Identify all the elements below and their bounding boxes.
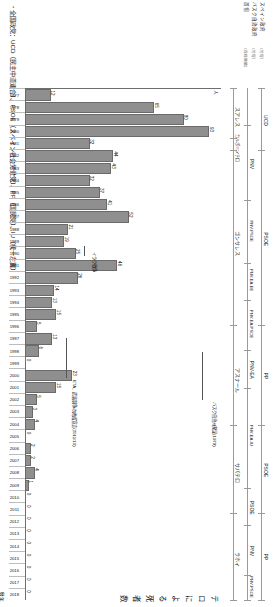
bar: [25, 211, 129, 222]
x-axis-tick: 2008: [9, 466, 25, 479]
timeline-segment-tick: [244, 488, 251, 489]
bar-value-label: 65: [154, 103, 159, 108]
bar: [25, 333, 52, 344]
bar-value-label: 15: [56, 310, 61, 315]
bar-value-label: 1: [28, 481, 33, 484]
x-axis-tick-label: 2006: [10, 446, 19, 451]
timeline-segment-label: UCD: [262, 115, 269, 126]
bar-value-label: 23: [72, 371, 77, 376]
timeline-segment-tick: [244, 263, 251, 264]
timeline-segment-label: PNV: [248, 546, 255, 556]
bar-value-label: 0: [27, 529, 32, 532]
bar: [25, 236, 64, 247]
timeline-segment-tick: [230, 425, 237, 426]
timeline-segment-tick: [244, 200, 251, 201]
x-axis-tick-label: 1977: [10, 93, 19, 98]
timeline-segment-tick: [244, 600, 251, 601]
bar-value-label: 0: [27, 566, 32, 569]
x-axis-tick-label: 2009: [10, 483, 19, 488]
bar-value-label: 5: [36, 322, 41, 325]
rotated-figure: ・全国政党：UCD（民主中道連合）、PSOE（スペイン社会労働党）、PP（国民党…: [0, 0, 273, 607]
timeline-segment-label: PSOE: [248, 501, 255, 515]
x-axis-tick-label: 2003: [10, 409, 19, 414]
x-axis-tick-label: 1996: [10, 324, 19, 329]
timeline-segment-tick: [258, 150, 265, 151]
bar-value-label: 46: [117, 261, 122, 266]
x-axis-tick-label: 2010: [10, 495, 19, 500]
figure-canvas: ・全国政党：UCD（民主中道連合）、PSOE（スペイン社会労働党）、PP（国民党…: [0, 0, 273, 607]
bar: [25, 187, 100, 198]
bar-value-label: 80: [183, 115, 188, 120]
bar-value-label: 2: [30, 444, 35, 447]
bar-value-label: 32: [89, 176, 94, 181]
bar: [25, 382, 56, 393]
timeline-segment-label: PNV-EA-EE: [248, 269, 255, 291]
timeline-segment-label: ゴンサレス: [234, 231, 241, 256]
timeline-segment-label: PNV-EA-PSOE: [248, 310, 255, 338]
x-axis-tick-label: 1984: [10, 178, 19, 183]
row-label-column: スペイン政府 （与党） バスク自治政府 （与党） 首相 （在任期間）: [223, 2, 267, 88]
bar: [25, 285, 54, 296]
timeline-segment-label: PNV-PSOE: [248, 576, 255, 597]
annotation-eta-ceasefire-leader: [66, 338, 67, 378]
bar-value-label: 41: [107, 200, 112, 205]
bar: [25, 199, 107, 210]
row-label-spain-government-note: （与党）: [258, 46, 264, 62]
bar: [25, 297, 52, 308]
bar: [25, 114, 184, 125]
timeline-segment-label: アスナール: [234, 368, 241, 393]
x-axis-tick-label: 1988: [10, 227, 19, 232]
bar-value-label: 32: [89, 139, 94, 144]
row-label-prime-minister-note: （在任期間）: [242, 46, 248, 70]
x-axis-tick-label: 2002: [10, 397, 19, 402]
bar: [25, 260, 117, 271]
x-axis-tick-label: 1989: [10, 239, 19, 244]
x-axis-tick-label: 1993: [10, 288, 19, 293]
bar: [25, 150, 113, 161]
x-axis-tick-label: 2014: [10, 544, 19, 549]
x-axis-tick-label: 1992: [10, 275, 19, 280]
x-axis-tick-label: 2015: [10, 556, 19, 561]
timeline-segment-tick: [244, 525, 251, 526]
x-axis-tick-label: 1999: [10, 361, 19, 366]
bar-value-label: 2: [30, 456, 35, 459]
row-label-spain-government: スペイン政府: [259, 2, 265, 32]
timeline-row-basque-government: PNVPNV-PSOEPNV-EA-EEPNV-EA-PSOEPNV-EAPNV…: [241, 88, 254, 600]
x-axis-tick-label: 1981: [10, 141, 19, 146]
bar-value-label: 13: [52, 298, 57, 303]
timeline-axis-line: [261, 88, 262, 600]
timeline-segment-tick: [258, 513, 265, 514]
y-axis-unit-label: 人: [213, 90, 219, 95]
bar-value-label: 12: [50, 90, 55, 95]
bar-value-label: 5: [36, 395, 41, 398]
timeline-segment-label: PNV-EA-IU: [248, 425, 255, 446]
bar: [25, 345, 39, 356]
x-axis-tick-label: 2016: [10, 568, 19, 573]
bar: [25, 163, 111, 174]
bar-value-label: 4: [34, 420, 39, 423]
bar-value-label: 15: [56, 383, 61, 388]
bar: [25, 175, 90, 186]
bar: [25, 102, 154, 113]
bar-value-label: 26: [77, 273, 82, 278]
timeline-segment-label: PNV-PSOE: [248, 220, 255, 241]
bar: [25, 370, 72, 381]
x-axis-tick-label: 2001: [10, 385, 19, 390]
x-axis-tick-label: 1982: [10, 153, 19, 158]
y-axis-line: [25, 88, 221, 89]
x-axis-tick-label: 2007: [10, 458, 19, 463]
x-axis-tick-label: 1985: [10, 190, 19, 195]
x-axis-tick: 1982: [9, 149, 25, 162]
x-axis-tick-label: 2013: [10, 531, 19, 536]
x-axis-tick: 1997: [9, 332, 25, 345]
bar-value-label: 3: [32, 407, 37, 410]
bar-value-label: 43: [111, 164, 116, 169]
bar: [25, 138, 90, 149]
timeline-segment-label: カルボ＝ソテロ: [234, 134, 241, 162]
annotation-iraq-war-leader: [84, 246, 85, 256]
bar: [25, 89, 51, 100]
bar-value-label: 25: [76, 249, 81, 254]
timeline-segment-tick: [230, 150, 237, 151]
timeline-segment-label: PSOE: [262, 232, 269, 246]
bar-value-label: 14: [54, 285, 59, 290]
